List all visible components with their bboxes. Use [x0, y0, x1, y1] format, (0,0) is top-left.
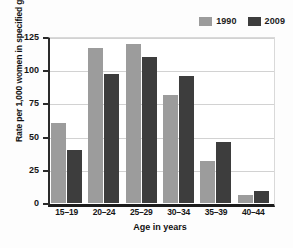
- bar-group: [126, 37, 157, 203]
- bar-chart-figure: 1990 2009 Rate per 1,000 women in specif…: [0, 0, 293, 248]
- x-tick-label: 20–24: [87, 207, 120, 217]
- y-tick-label: 125: [0, 33, 39, 42]
- x-tick-label: 35–39: [199, 207, 232, 217]
- bar-2009[interactable]: [254, 191, 269, 203]
- x-tick-label: 15–19: [50, 207, 83, 217]
- bar-2009[interactable]: [104, 74, 119, 203]
- bar-2009[interactable]: [179, 76, 194, 203]
- legend-swatch-1990: [199, 17, 212, 26]
- x-tick-label: 40–44: [237, 207, 270, 217]
- legend-label-2009: 2009: [265, 17, 285, 26]
- x-tick-label: 30–34: [162, 207, 195, 217]
- bar-1990[interactable]: [88, 48, 103, 203]
- bar-group: [238, 37, 269, 203]
- bar-1990[interactable]: [163, 95, 178, 203]
- x-axis-title: Age in years: [48, 222, 272, 232]
- y-tick-label: 75: [0, 99, 39, 108]
- bar-1990[interactable]: [51, 123, 66, 203]
- bar-group: [200, 37, 231, 203]
- y-tick-label: 100: [0, 66, 39, 75]
- bar-2009[interactable]: [67, 150, 82, 203]
- x-tick-label: 25–29: [125, 207, 158, 217]
- x-axis-ticks: 15–1920–2425–2930–3435–3940–44: [48, 207, 272, 217]
- bar-1990[interactable]: [238, 195, 253, 203]
- bar-2009[interactable]: [216, 142, 231, 203]
- bar-group: [163, 37, 194, 203]
- bar-series-container: [48, 37, 272, 203]
- legend-entry-2009: 2009: [248, 17, 285, 26]
- legend-label-1990: 1990: [216, 17, 236, 26]
- bar-1990[interactable]: [200, 161, 215, 203]
- bar-group: [88, 37, 119, 203]
- legend-entry-1990: 1990: [199, 17, 236, 26]
- bar-2009[interactable]: [142, 57, 157, 203]
- legend-swatch-2009: [248, 17, 261, 26]
- bar-1990[interactable]: [126, 44, 141, 203]
- chart-legend: 1990 2009: [0, 13, 285, 29]
- y-tick-label: 0: [0, 199, 39, 208]
- y-tick-mark: [43, 203, 48, 205]
- y-tick-label: 25: [0, 166, 39, 175]
- y-tick-label: 50: [0, 133, 39, 142]
- bar-group: [51, 37, 82, 203]
